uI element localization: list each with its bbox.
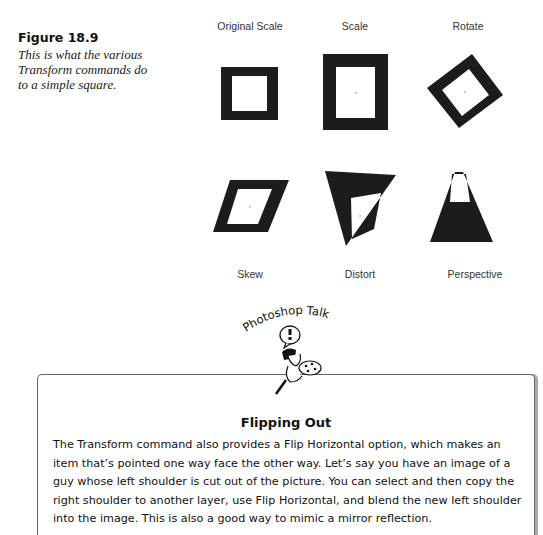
sidebar-title: Flipping Out bbox=[38, 415, 534, 430]
transform-figures bbox=[0, 0, 543, 300]
shape-skewed-parallelogram bbox=[213, 180, 289, 232]
shape-original-square bbox=[221, 67, 278, 120]
shape-rotated-square bbox=[427, 54, 503, 128]
sidebar-body: The Transform command also provides a Fl… bbox=[53, 436, 522, 529]
shape-perspective-trapezoid bbox=[430, 172, 493, 242]
painter-with-palette-icon: Photoshop Talk bbox=[240, 300, 350, 400]
shape-scaled-rectangle bbox=[323, 54, 388, 130]
shape-distorted-quadrilateral bbox=[325, 171, 396, 246]
